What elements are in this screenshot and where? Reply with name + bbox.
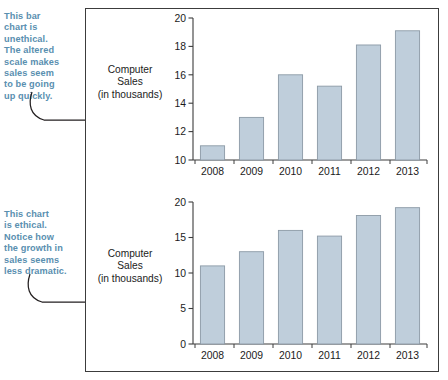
x-axis-label-2012: 2012 (357, 350, 380, 361)
bar-2013 (395, 208, 419, 344)
chart-caption-top: Computer Sales (in thousands) (86, 64, 174, 101)
bar-chart-ethical: 05101520200820092010201120122013 (163, 192, 435, 374)
x-axis-label-2008: 2008 (201, 350, 224, 361)
y-axis-tick-label: 14 (174, 98, 186, 109)
y-axis-tick-label: 16 (174, 70, 186, 81)
y-axis-tick-label: 10 (174, 155, 186, 166)
y-axis-tick-label: 20 (174, 197, 186, 208)
chart-caption-bottom: Computer Sales (in thousands) (86, 248, 174, 285)
x-axis-label-2013: 2013 (396, 166, 419, 177)
x-axis-label-2010: 2010 (279, 350, 302, 361)
y-axis-tick-label: 10 (174, 268, 186, 279)
bar-2010 (278, 230, 302, 344)
bar-chart-ethical-canvas: 05101520200820092010201120122013 (163, 192, 435, 374)
annotation-text-ethical: This chart is ethical. Notice how the gr… (4, 209, 86, 277)
y-axis-tick-label: 18 (174, 41, 186, 52)
bar-2011 (317, 86, 341, 160)
annotation-text-unethical: This bar chart is unethical. The altered… (4, 11, 82, 102)
bar-2011 (317, 236, 341, 344)
x-axis-label-2010: 2010 (279, 166, 302, 177)
bar-2009 (239, 252, 263, 344)
y-axis-tick-label: 5 (180, 303, 186, 314)
y-axis-tick-label: 12 (174, 126, 186, 137)
x-axis-label-2009: 2009 (240, 350, 263, 361)
y-axis-tick-label: 0 (180, 339, 186, 350)
bar-2013 (395, 31, 419, 160)
x-axis-label-2009: 2009 (240, 166, 263, 177)
bar-chart-unethical-canvas: 101214161820200820092010201120122013 (163, 10, 435, 188)
x-axis-label-2008: 2008 (201, 166, 224, 177)
bar-2012 (356, 45, 380, 160)
x-axis-label-2013: 2013 (396, 350, 419, 361)
bar-2008 (200, 146, 224, 160)
x-axis-label-2012: 2012 (357, 166, 380, 177)
x-axis-label-2011: 2011 (318, 350, 341, 361)
bar-2008 (200, 266, 224, 344)
bar-2009 (239, 117, 263, 160)
bar-chart-unethical: 101214161820200820092010201120122013 (163, 10, 435, 188)
y-axis-tick-label: 20 (174, 13, 186, 24)
y-axis-tick-label: 15 (174, 232, 186, 243)
bar-2012 (356, 215, 380, 344)
x-axis-label-2011: 2011 (318, 166, 341, 177)
bar-2010 (278, 75, 302, 160)
